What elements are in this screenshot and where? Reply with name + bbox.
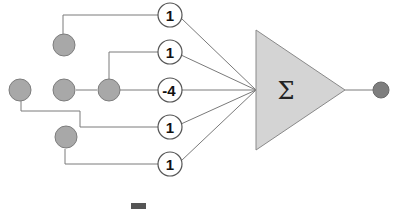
wire-left-input [21, 101, 158, 127]
wire-weight-1 [181, 55, 256, 90]
neuron-diagram: 1 1 -4 1 1 Σ [0, 0, 393, 209]
weight-label: 1 [166, 7, 174, 24]
weight-label: 1 [166, 156, 174, 173]
wire-bottom-input [65, 149, 158, 164]
weight-label: 1 [166, 119, 174, 136]
input-node-center [53, 79, 75, 101]
input-node-bottom [55, 126, 77, 148]
wire-right-input [109, 52, 158, 79]
weight-node: 1 [158, 3, 182, 27]
summation-unit: Σ [256, 30, 345, 150]
weight-label: 1 [166, 44, 174, 61]
weight-node: 1 [158, 115, 182, 139]
input-node-top [53, 34, 75, 56]
weight-node: 1 [158, 40, 182, 64]
wire-top-input [63, 15, 158, 35]
summation-triangle [256, 30, 345, 150]
wire-weight-4 [181, 90, 256, 161]
sigma-symbol: Σ [278, 77, 295, 105]
weight-node: -4 [158, 78, 182, 102]
weight-wires [181, 18, 256, 161]
input-nodes [9, 34, 120, 148]
wire-weight-0 [181, 18, 256, 90]
input-wires [21, 15, 158, 164]
input-node-right [98, 79, 120, 101]
input-node-left [9, 79, 31, 101]
wire-weight-3 [181, 90, 256, 124]
output-node [373, 82, 389, 98]
weight-node: 1 [158, 152, 182, 176]
weight-label: -4 [162, 82, 176, 99]
marker-block [131, 203, 146, 209]
weight-nodes: 1 1 -4 1 1 [158, 3, 182, 176]
